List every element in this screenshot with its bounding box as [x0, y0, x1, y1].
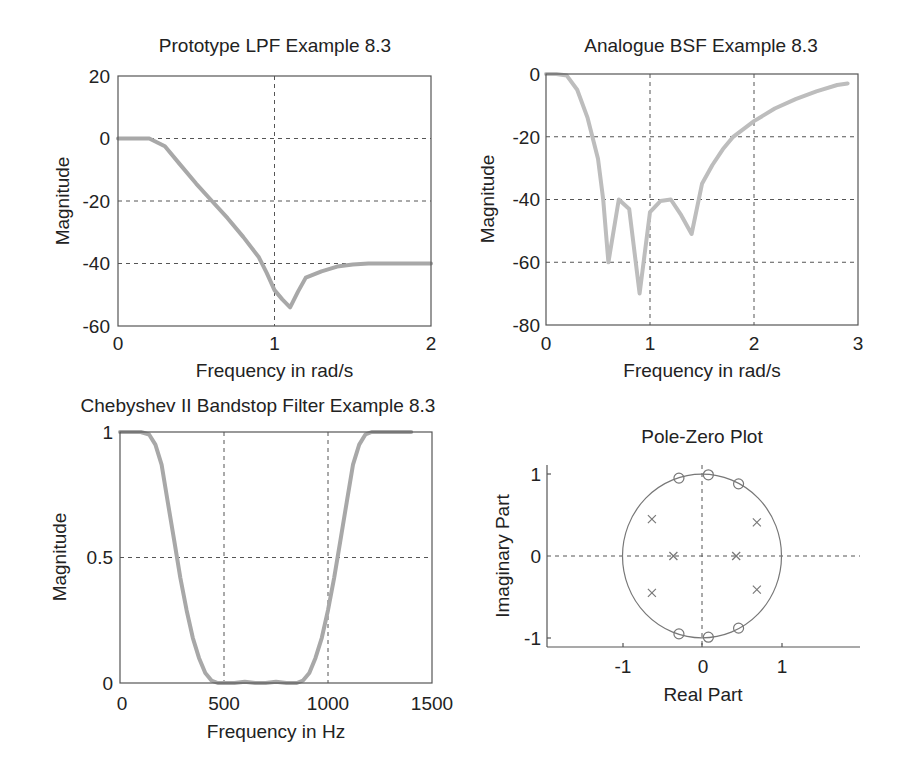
grid	[120, 432, 432, 683]
svg-text:-40: -40	[83, 253, 110, 274]
subplot-analogue-bsf: Analogue BSF Example 8.3 0 -20 -40 -60 -…	[477, 35, 863, 381]
svg-text:1: 1	[269, 333, 280, 354]
x-tick-labels: -1 0 1	[615, 656, 788, 677]
pole-marker	[753, 586, 761, 594]
x-axis-label: Frequency in rad/s	[196, 360, 353, 381]
svg-text:-1: -1	[524, 628, 541, 649]
svg-text:0: 0	[102, 673, 113, 694]
svg-text:-40: -40	[513, 189, 540, 210]
svg-text:20: 20	[89, 66, 110, 87]
poles	[648, 515, 761, 597]
magnitude-curve	[546, 74, 848, 294]
pole-marker	[753, 518, 761, 526]
svg-text:1: 1	[777, 656, 788, 677]
plot-title: Chebyshev II Bandstop Filter Example 8.3	[81, 395, 436, 416]
svg-text:0: 0	[99, 128, 110, 149]
pole-marker	[648, 515, 656, 523]
y-tick-labels: 1 0 -1	[524, 464, 541, 649]
svg-text:0: 0	[113, 333, 124, 354]
subplot-prototype-lpf: Prototype LPF Example 8.3 20 0 -20 -40 -…	[52, 35, 436, 381]
grid	[546, 74, 858, 325]
y-tick-labels: 20 0 -20 -40 -60	[83, 66, 110, 337]
svg-text:1: 1	[530, 464, 541, 485]
y-axis-label: Magnitude	[477, 155, 498, 244]
figure: Prototype LPF Example 8.3 20 0 -20 -40 -…	[0, 0, 900, 770]
svg-text:0: 0	[541, 333, 552, 354]
svg-text:1500: 1500	[411, 693, 453, 714]
y-axis-label: Magnitude	[52, 157, 73, 246]
svg-text:2: 2	[426, 333, 437, 354]
svg-text:-1: -1	[615, 656, 632, 677]
svg-text:0.5: 0.5	[87, 547, 113, 568]
y-axis-label: Imaginary Part	[492, 494, 513, 618]
plot-title: Prototype LPF Example 8.3	[159, 35, 391, 56]
x-axis-label: Frequency in rad/s	[623, 360, 780, 381]
svg-text:-20: -20	[83, 191, 110, 212]
subplot-chebyshev-bandstop: Chebyshev II Bandstop Filter Example 8.3…	[49, 395, 453, 742]
svg-text:2: 2	[749, 333, 760, 354]
svg-text:0: 0	[117, 693, 128, 714]
subplot-pole-zero: Pole-Zero Plot 1 0 -1 -1 0 1 Real Part	[492, 426, 860, 705]
x-tick-labels: 0 1 2	[113, 333, 437, 354]
grid	[547, 465, 860, 647]
svg-text:-80: -80	[513, 315, 540, 336]
x-axis-label: Real Part	[663, 684, 743, 705]
svg-text:-20: -20	[513, 127, 540, 148]
pole-marker	[648, 589, 656, 597]
svg-text:500: 500	[208, 693, 240, 714]
y-tick-labels: 1 0.5 0	[87, 422, 113, 694]
svg-text:-60: -60	[83, 316, 110, 337]
svg-text:-60: -60	[513, 252, 540, 273]
x-tick-labels: 0 500 1000 1500	[117, 693, 453, 714]
svg-text:0: 0	[530, 546, 541, 567]
svg-text:1000: 1000	[307, 693, 349, 714]
y-axis-label: Magnitude	[49, 513, 70, 602]
svg-text:0: 0	[698, 656, 709, 677]
plot-title: Pole-Zero Plot	[641, 426, 763, 447]
svg-text:1: 1	[645, 333, 656, 354]
svg-text:0: 0	[529, 64, 540, 85]
y-tick-labels: 0 -20 -40 -60 -80	[513, 64, 540, 336]
svg-text:3: 3	[853, 333, 864, 354]
x-tick-labels: 0 1 2 3	[541, 333, 864, 354]
svg-text:1: 1	[102, 422, 113, 443]
x-axis-label: Frequency in Hz	[207, 721, 345, 742]
plot-title: Analogue BSF Example 8.3	[584, 35, 817, 56]
